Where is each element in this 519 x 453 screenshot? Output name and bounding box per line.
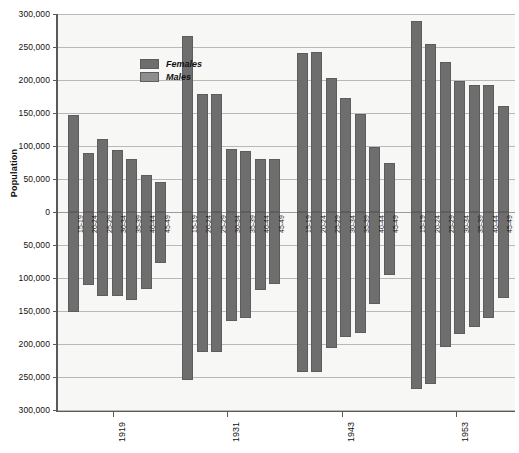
x-axis-tickmark [227, 412, 228, 417]
x-axis-tickmark [113, 412, 114, 417]
x-axis-tick-label: 1919 [117, 422, 127, 442]
x-axis-tickmark [342, 412, 343, 417]
x-axis-tick-label: 1953 [460, 422, 470, 442]
x-axis-tick-label: 1943 [346, 422, 356, 442]
x-axis-tickmark [456, 412, 457, 417]
population-pyramid-chart: Population 300,000250,000200,000150,0001… [0, 0, 519, 453]
x-axis-tick-label: 1931 [231, 422, 241, 442]
x-axis-tick-labels: 1919193119431953 [0, 0, 519, 453]
